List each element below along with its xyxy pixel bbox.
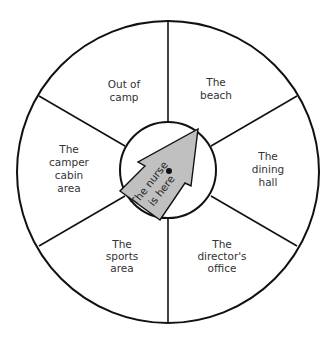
section-out-of-camp: Out ofcamp <box>108 78 141 103</box>
svg-text:Out ofcamp: Out ofcamp <box>108 78 141 103</box>
spinner-diagram: Out ofcamp Thebeach Thedininghall Thedir… <box>0 0 331 337</box>
